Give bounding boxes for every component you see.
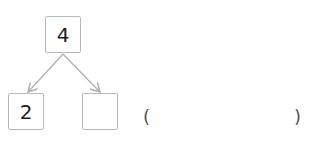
answer-blank[interactable] (160, 106, 290, 130)
answer-close-paren: ) (294, 106, 301, 127)
whole-number-box: 4 (45, 16, 81, 53)
arrow-left (29, 54, 63, 91)
whole-number-value: 4 (57, 23, 70, 47)
answer-open-paren: ( (143, 106, 150, 127)
arrow-right (63, 54, 99, 91)
part-box-right-blank[interactable] (82, 93, 118, 130)
part-left-value: 2 (20, 100, 33, 124)
part-box-left: 2 (8, 93, 44, 130)
